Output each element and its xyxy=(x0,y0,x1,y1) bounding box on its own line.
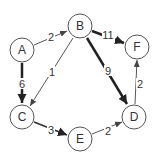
node-d: D xyxy=(122,105,146,129)
edge-label-a-b: 2 xyxy=(48,31,54,43)
edge-label-e-d: 2 xyxy=(105,125,111,137)
graph-diagram: 2 6 1 11 9 3 2 2 A B F C xyxy=(0,0,158,163)
node-a: A xyxy=(10,38,34,62)
edge-label-c-e: 3 xyxy=(48,124,54,136)
node-c: C xyxy=(10,105,34,129)
node-label-d: D xyxy=(130,110,139,124)
node-label-b: B xyxy=(76,19,84,33)
node-label-c: C xyxy=(18,110,27,124)
edge-label-b-c: 1 xyxy=(49,66,55,78)
node-e: E xyxy=(68,127,92,151)
node-label-a: A xyxy=(18,43,26,57)
edge-label-a-c: 6 xyxy=(19,78,25,90)
edge-label-b-f: 11 xyxy=(102,29,113,41)
edge-label-d-f: 2 xyxy=(137,78,143,90)
node-label-f: F xyxy=(133,40,140,54)
node-label-e: E xyxy=(76,132,84,146)
node-f: F xyxy=(125,35,149,59)
edge-label-b-d: 9 xyxy=(105,65,111,77)
node-b: B xyxy=(68,14,92,38)
